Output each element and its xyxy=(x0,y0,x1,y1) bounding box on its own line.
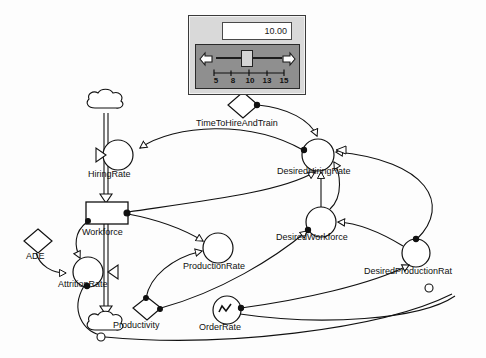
label-ade: ADE xyxy=(26,251,45,261)
node-desired-production-rate xyxy=(402,239,430,267)
port-workforce-right xyxy=(124,210,130,216)
label-attrition-rate: AttritionRate xyxy=(58,279,108,289)
tick-label-2: 10 xyxy=(244,76,256,88)
port-desired-production-top xyxy=(413,236,418,241)
node-ade-diamond xyxy=(24,229,52,253)
slider-value-display[interactable]: 10.00 xyxy=(222,22,292,40)
link-workforce-to-production-rate xyxy=(128,214,203,241)
label-workforce: Workforce xyxy=(82,227,123,237)
node-hiring-rate-circle xyxy=(103,140,133,170)
label-time-to-hire-and-train: TimeToHireAndTrain xyxy=(196,118,278,128)
node-production-rate xyxy=(203,233,233,263)
valve-attrition-rate xyxy=(108,265,118,279)
arrow-right-icon[interactable] xyxy=(282,51,296,67)
node-workforce-stock xyxy=(86,202,128,224)
slider-tick-labels: 5 8 10 13 15 xyxy=(210,76,290,88)
slider-thumb[interactable] xyxy=(241,50,253,67)
link-order-rate-lower-arc xyxy=(240,296,455,320)
link-bottom-long-arc xyxy=(105,294,452,340)
label-desired-production-rate: DesiredProductionRat xyxy=(364,266,452,276)
label-hiring-rate: HiringRate xyxy=(88,169,131,179)
slider-track-area[interactable]: 5 8 10 13 15 xyxy=(195,44,300,89)
label-desired-workforce: DesiredWorkforce xyxy=(276,232,348,242)
label-productivity: Productivity xyxy=(113,320,160,330)
cloud-source xyxy=(87,89,123,108)
arrow-left-icon[interactable] xyxy=(199,51,213,67)
diagram-canvas: 10.00 5 8 10 13 xyxy=(0,0,486,358)
link-workforce-to-desired-hiring-rate xyxy=(128,172,315,212)
link-productivity-to-production-rate xyxy=(146,251,202,298)
connector-junction-bottom xyxy=(97,333,105,341)
tick-label-3: 13 xyxy=(261,76,273,88)
label-order-rate: OrderRate xyxy=(199,322,241,332)
port-order-rate-right xyxy=(238,305,243,310)
slider-control-panel[interactable]: 10.00 5 8 10 13 xyxy=(188,15,306,95)
label-desired-hiring-rate: DesiredHiringRate xyxy=(277,166,351,176)
tick-label-1: 8 xyxy=(227,76,239,88)
slider-tick-marks xyxy=(213,69,285,76)
tick-label-0: 5 xyxy=(210,76,222,88)
label-production-rate: ProductionRate xyxy=(183,261,245,271)
tick-label-4: 15 xyxy=(278,76,290,88)
link-desired-hiring-rate-to-hiring-rate xyxy=(140,129,303,150)
node-time-to-hire-diamond xyxy=(228,92,258,118)
connector-junction-right xyxy=(425,284,433,292)
port-desired-hiring-left xyxy=(301,147,306,152)
